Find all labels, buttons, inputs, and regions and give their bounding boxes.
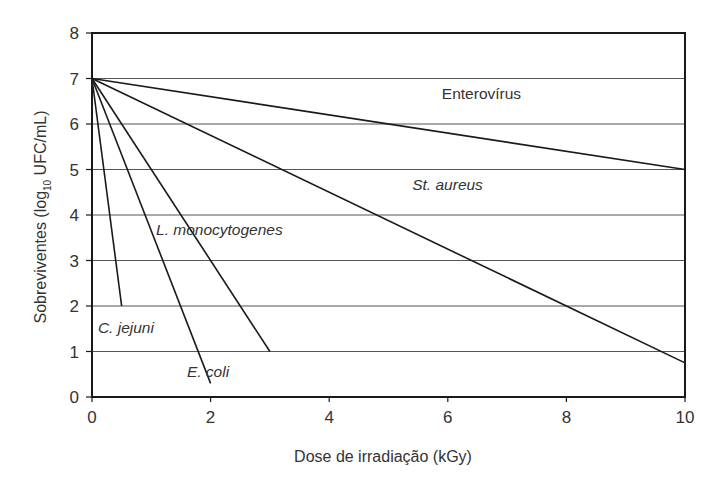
y-tick-label: 5 [70, 161, 79, 180]
x-axis-title: Dose de irradiação (kGy) [294, 448, 472, 465]
y-tick-label: 7 [70, 70, 79, 89]
x-tick-label: 8 [562, 408, 571, 427]
x-tick-label: 0 [87, 408, 96, 427]
survival-curve-chart: 012345678 0246810 EnterovírusSt. aureusL… [0, 0, 719, 487]
series-line [92, 79, 122, 307]
y-axis-title-subscript: 10 [42, 179, 53, 191]
y-tick-label: 6 [70, 115, 79, 134]
y-axis-ticks: 012345678 [70, 24, 92, 407]
x-tick-label: 10 [676, 408, 695, 427]
y-axis-title: Sobreviventes (log10 UFC/mL) [32, 111, 53, 324]
series-label: E. coli [187, 363, 230, 380]
x-tick-label: 6 [443, 408, 452, 427]
y-tick-label: 8 [70, 24, 79, 43]
x-axis-ticks: 0246810 [87, 397, 694, 427]
series-labels: EnterovírusSt. aureusL. monocytogenesC. … [98, 85, 521, 380]
series-label: C. jejuni [98, 319, 155, 336]
series-label: L. monocytogenes [156, 221, 283, 238]
x-tick-label: 4 [324, 408, 333, 427]
x-tick-label: 2 [206, 408, 215, 427]
y-tick-label: 0 [70, 388, 79, 407]
y-tick-label: 3 [70, 252, 79, 271]
y-tick-label: 2 [70, 297, 79, 316]
y-tick-label: 4 [70, 206, 79, 225]
y-axis-title-units: UFC/mL) [32, 111, 49, 180]
y-tick-label: 1 [70, 343, 79, 362]
series-label: St. aureus [412, 176, 483, 193]
series-label: Enterovírus [442, 85, 522, 102]
y-axis-title-main: Sobreviventes (log [32, 191, 49, 324]
